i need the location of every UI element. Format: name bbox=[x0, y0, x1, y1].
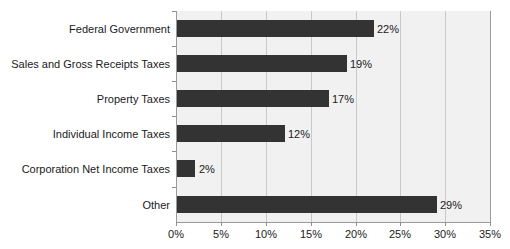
x-tick-10 bbox=[266, 222, 267, 226]
category-label: Corporation Net Income Taxes bbox=[22, 163, 170, 175]
x-tick-15 bbox=[311, 222, 312, 226]
x-axis-label: 30% bbox=[434, 228, 456, 240]
y-tick-2 bbox=[172, 81, 176, 82]
y-tick-3 bbox=[172, 116, 176, 117]
gridline-10 bbox=[266, 11, 267, 222]
gridline-25 bbox=[400, 11, 401, 222]
x-tick-0 bbox=[176, 222, 177, 226]
bar-value-label: 19% bbox=[350, 58, 372, 70]
x-axis-label: 0% bbox=[168, 228, 184, 240]
y-tick-0 bbox=[172, 11, 176, 12]
bar-sales-and-gross-receipts-taxes bbox=[177, 55, 347, 72]
x-axis-label: 25% bbox=[389, 228, 411, 240]
bar-value-label: 22% bbox=[377, 23, 399, 35]
bar-other bbox=[177, 196, 437, 213]
gridline-30 bbox=[445, 11, 446, 222]
category-label: Property Taxes bbox=[97, 93, 170, 105]
bar-chart: Federal Government 22% Sales and Gross R… bbox=[0, 0, 510, 249]
x-axis-line bbox=[176, 222, 491, 223]
category-label: Other bbox=[142, 199, 170, 211]
bar-individual-income-taxes bbox=[177, 125, 285, 142]
category-label: Individual Income Taxes bbox=[53, 128, 170, 140]
bar-value-label: 17% bbox=[332, 93, 354, 105]
x-tick-25 bbox=[400, 222, 401, 226]
x-tick-35 bbox=[490, 222, 491, 226]
y-tick-4 bbox=[172, 151, 176, 152]
bar-value-label: 12% bbox=[288, 128, 310, 140]
x-axis-label: 10% bbox=[255, 228, 277, 240]
x-axis-label: 20% bbox=[345, 228, 367, 240]
bar-federal-government bbox=[177, 20, 374, 37]
bar-value-label: 2% bbox=[199, 163, 215, 175]
x-axis-label: 35% bbox=[479, 228, 501, 240]
bar-value-label: 29% bbox=[440, 199, 462, 211]
bar-property-taxes bbox=[177, 90, 329, 107]
gridline-5 bbox=[221, 11, 222, 222]
gridline-20 bbox=[356, 11, 357, 222]
category-label: Federal Government bbox=[69, 23, 170, 35]
bar-corporation-net-income-taxes bbox=[177, 160, 195, 177]
plot-right-border bbox=[490, 11, 491, 222]
x-tick-5 bbox=[221, 222, 222, 226]
x-axis-label: 5% bbox=[213, 228, 229, 240]
x-tick-30 bbox=[445, 222, 446, 226]
category-label: Sales and Gross Receipts Taxes bbox=[11, 58, 170, 70]
x-tick-20 bbox=[356, 222, 357, 226]
y-tick-1 bbox=[172, 46, 176, 47]
x-axis-label: 15% bbox=[300, 228, 322, 240]
y-axis-line bbox=[176, 11, 177, 222]
plot-area bbox=[176, 11, 490, 222]
gridline-15 bbox=[311, 11, 312, 222]
y-tick-5 bbox=[172, 187, 176, 188]
